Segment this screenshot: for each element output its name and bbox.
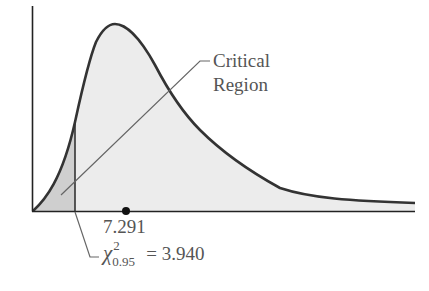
chi-square-figure: Critical Region 7.291 χ20.95= 3.940 bbox=[0, 0, 429, 291]
test-statistic-label: 7.291 bbox=[103, 217, 146, 236]
critical-region-label-line2: Region bbox=[213, 73, 270, 97]
chi-subscript: 0.95 bbox=[112, 255, 135, 268]
critical-region-label: Critical Region bbox=[213, 49, 270, 97]
critical-value-number: 3.940 bbox=[162, 243, 205, 264]
equals-sign: = bbox=[146, 243, 157, 264]
distribution-plot bbox=[0, 0, 429, 291]
critical-region-label-line1: Critical bbox=[213, 49, 270, 73]
chi-superscript: 2 bbox=[113, 239, 120, 252]
critical-value-label: χ20.95= 3.940 bbox=[103, 243, 204, 264]
test-statistic-dot bbox=[122, 207, 130, 215]
critical-region-fill bbox=[33, 122, 75, 211]
chi-symbol: χ bbox=[103, 241, 112, 265]
critical-value-leader-line bbox=[75, 212, 99, 257]
chi-indices: 20.95 bbox=[112, 243, 140, 263]
